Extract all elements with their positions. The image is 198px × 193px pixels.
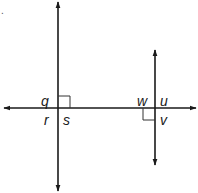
angle-label-v: v: [160, 113, 167, 127]
angle-label-q: q: [41, 94, 49, 108]
angle-label-w: w: [137, 94, 147, 108]
perpendicular-lines-diagram: [0, 0, 198, 193]
right-angle-icon: [58, 96, 70, 108]
angle-label-s: s: [63, 113, 70, 127]
right-angle-icon: [143, 108, 155, 120]
angle-label-u: u: [160, 94, 168, 108]
angle-label-r: r: [44, 113, 49, 127]
